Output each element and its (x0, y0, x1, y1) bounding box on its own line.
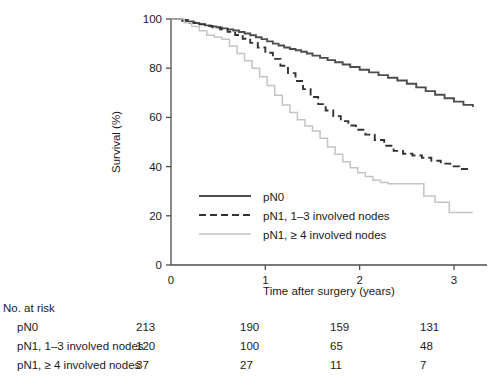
x-tick-label: 3 (451, 274, 457, 286)
legend-label-2: pN1, ≥ 4 involved nodes (263, 229, 387, 241)
y-tick-label: 60 (149, 111, 162, 123)
risk-cell: 213 (136, 321, 155, 333)
risk-row-label: pN1, ≥ 4 involved nodes (17, 359, 140, 371)
legend-label-0: pN0 (263, 191, 284, 203)
curve-pn1-1-3-involved-nodes (171, 19, 469, 171)
kaplan-meier-plot: 020406080100 0123 Survival (%) Time afte… (0, 0, 494, 300)
curve-pn1-4-involved-nodes (171, 19, 473, 213)
y-tick-label: 0 (156, 259, 162, 271)
y-tick-label: 80 (149, 62, 162, 74)
risk-table-row: pN0213190159131 (0, 321, 494, 340)
risk-table-title: No. at risk (3, 302, 55, 314)
y-tick-label: 20 (149, 210, 162, 222)
risk-table-row: pN1, 1–3 involved nodes1201006548 (0, 340, 494, 359)
risk-cell: 190 (240, 321, 259, 333)
risk-cell: 48 (420, 340, 433, 352)
legend-label-1: pN1, 1–3 involved nodes (263, 210, 390, 222)
y-axis-title: Survival (%) (110, 111, 122, 173)
risk-cell: 159 (330, 321, 349, 333)
risk-cell: 65 (330, 340, 343, 352)
chart-legend: pN0pN1, 1–3 involved nodespN1, ≥ 4 invol… (199, 191, 390, 241)
risk-row-label: pN1, 1–3 involved nodes (17, 340, 144, 352)
y-axis-ticks: 020406080100 (143, 13, 171, 271)
survival-curves (171, 19, 473, 213)
y-tick-label: 40 (149, 161, 162, 173)
risk-table: No. at risk pN0213190159131pN1, 1–3 invo… (0, 300, 494, 391)
risk-table-row: pN1, ≥ 4 involved nodes3727117 (0, 359, 494, 378)
risk-cell: 131 (420, 321, 439, 333)
curve-pn0 (171, 19, 473, 107)
x-axis-title: Time after surgery (years) (263, 285, 395, 297)
y-tick-label: 100 (143, 13, 162, 25)
risk-cell: 7 (420, 359, 426, 371)
risk-cell: 100 (240, 340, 259, 352)
survival-figure: 020406080100 0123 Survival (%) Time afte… (0, 0, 494, 391)
risk-cell: 11 (330, 359, 342, 371)
risk-cell: 37 (136, 359, 149, 371)
x-axis-ticks: 0123 (168, 265, 457, 286)
risk-cell: 27 (240, 359, 253, 371)
x-tick-label: 0 (168, 274, 174, 286)
risk-cell: 120 (136, 340, 155, 352)
risk-row-label: pN0 (17, 321, 38, 333)
